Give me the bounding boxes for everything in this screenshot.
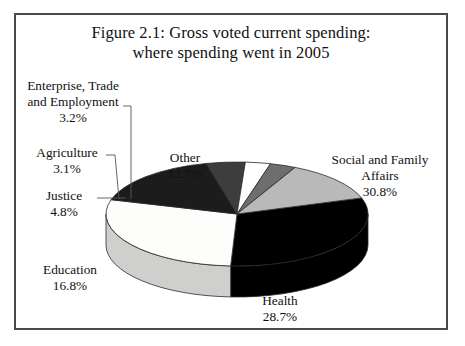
label-justice: Justice 4.8% — [31, 188, 97, 220]
label-agriculture: Agriculture 3.1% — [27, 145, 107, 177]
label-social-line-1: Social and Family — [332, 152, 429, 167]
label-social-value: 30.8% — [320, 184, 440, 200]
label-education: Education 16.8% — [20, 262, 120, 294]
label-social-line-2: Affairs — [320, 168, 440, 184]
label-health-value: 28.7% — [240, 309, 320, 325]
label-education-value: 16.8% — [20, 278, 120, 294]
label-enterprise-line-2: and Employment — [18, 94, 128, 110]
label-social-and-family-affairs: Social and Family Affairs 30.8% — [320, 152, 440, 200]
label-agriculture-name: Agriculture — [36, 145, 97, 160]
leader-line-agriculture — [106, 155, 119, 199]
label-education-name: Education — [43, 262, 97, 277]
label-health: Health 28.7% — [240, 293, 320, 325]
label-justice-value: 4.8% — [31, 204, 97, 220]
label-enterprise: Enterprise, Trade and Employment 3.2% — [18, 78, 128, 126]
label-agriculture-value: 3.1% — [27, 161, 107, 177]
label-health-name: Health — [262, 293, 297, 308]
label-other: Other 12.7% — [150, 150, 220, 182]
label-enterprise-line-1: Enterprise, Trade — [27, 78, 119, 93]
label-other-value: 12.7% — [150, 166, 220, 182]
label-justice-name: Justice — [46, 188, 82, 203]
label-enterprise-value: 3.2% — [18, 110, 128, 126]
label-other-name: Other — [170, 150, 200, 165]
